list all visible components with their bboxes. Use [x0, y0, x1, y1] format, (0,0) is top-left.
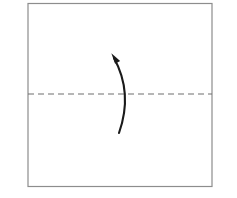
origami-diagram-canvas: Square sheet of paper with a horizontal … [0, 0, 237, 198]
origami-diagram-svg: Origami fold step: square sheet with hor… [0, 0, 237, 198]
paper-square [28, 4, 212, 187]
